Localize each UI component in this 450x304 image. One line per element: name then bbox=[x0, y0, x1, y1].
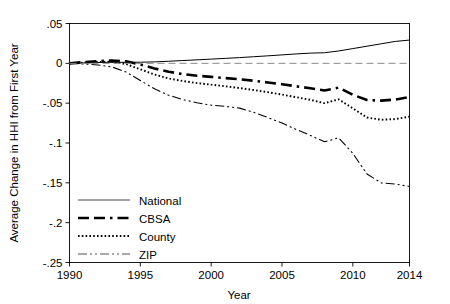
y-axis-ticks: .050-.05-.1-.15-.2-.25 bbox=[43, 18, 70, 269]
line-chart: .050-.05-.1-.15-.2-.25 19901995200020052… bbox=[0, 0, 450, 304]
x-tick-label: 1990 bbox=[57, 269, 83, 281]
legend-label-county: County bbox=[139, 231, 176, 243]
y-tick-label: 0 bbox=[56, 57, 62, 69]
x-tick-label: 2014 bbox=[397, 269, 423, 281]
series-line-national bbox=[70, 40, 410, 63]
series-line-zip bbox=[70, 63, 410, 186]
x-axis-title: Year bbox=[227, 289, 250, 301]
chart-figure: .050-.05-.1-.15-.2-.25 19901995200020052… bbox=[0, 0, 450, 304]
legend-label-cbsa: CBSA bbox=[139, 213, 171, 225]
y-tick-label: -.1 bbox=[49, 137, 62, 149]
plot-frame bbox=[70, 24, 410, 263]
x-tick-label: 2000 bbox=[198, 269, 224, 281]
y-tick-label: -.05 bbox=[43, 97, 63, 109]
y-axis-title: Average Change in HHI from First Year bbox=[8, 43, 20, 242]
x-axis-ticks: 199019952000200520102014 bbox=[57, 263, 423, 281]
x-tick-label: 1995 bbox=[128, 269, 154, 281]
series-lines bbox=[70, 40, 410, 186]
x-tick-label: 2010 bbox=[340, 269, 366, 281]
y-tick-label: -.25 bbox=[43, 257, 63, 269]
legend-label-national: National bbox=[139, 195, 181, 207]
y-tick-label: -.2 bbox=[49, 217, 62, 229]
legend-label-zip: ZIP bbox=[139, 249, 157, 261]
y-tick-label: -.15 bbox=[43, 177, 63, 189]
series-line-cbsa bbox=[70, 61, 410, 101]
x-tick-label: 2005 bbox=[269, 269, 295, 281]
y-tick-label: .05 bbox=[47, 18, 63, 30]
chart-legend: NationalCBSACountyZIP bbox=[78, 195, 181, 261]
